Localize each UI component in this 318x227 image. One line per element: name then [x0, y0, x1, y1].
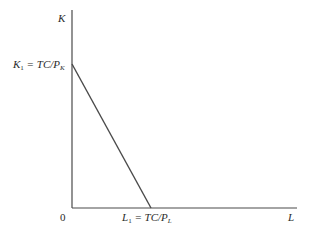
isocost-line: [72, 64, 151, 208]
y-intercept-eq-sub: K: [60, 64, 65, 72]
x-intercept-eq: = TC/P: [132, 211, 168, 223]
origin-label: 0: [60, 212, 66, 223]
x-intercept-label: L1 = TC/PL: [122, 212, 172, 225]
y-intercept-eq: = TC/P: [24, 58, 60, 70]
x-intercept-eq-sub: L: [168, 217, 172, 225]
x-axis-label: L: [288, 212, 294, 223]
isocost-diagram: [0, 0, 318, 227]
y-intercept-label: K1 = TC/PK: [13, 59, 65, 72]
y-axis-label: K: [58, 13, 65, 24]
